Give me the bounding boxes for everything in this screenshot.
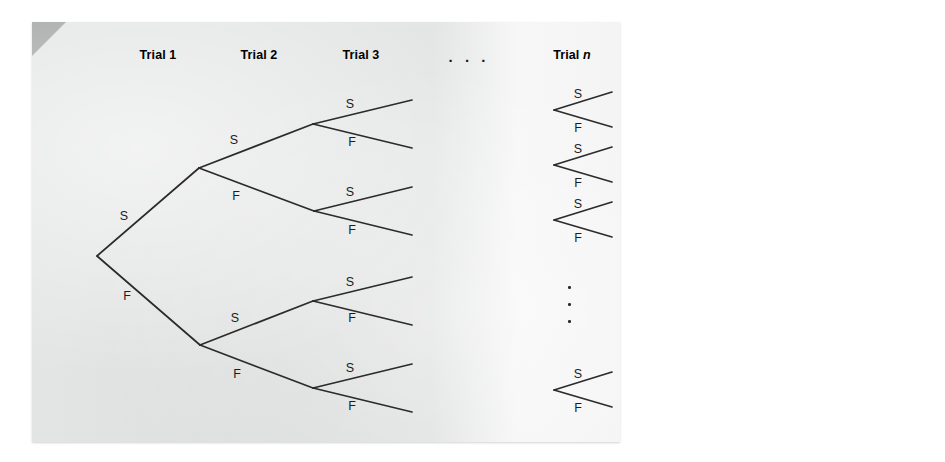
branch-label-success-10: S	[346, 275, 354, 289]
branch-label-failure-13: F	[348, 399, 356, 413]
branch-label-success-16: S	[574, 142, 582, 156]
branch-trialn-s-1	[554, 147, 612, 165]
branch-label-failure-1: F	[123, 289, 131, 303]
branch-trial2-f-1	[199, 168, 314, 211]
header-trial-n-variable: n	[583, 48, 591, 62]
header-trial-2: Trial 2	[241, 48, 278, 62]
tree-branches-layer	[0, 0, 945, 462]
branch-label-failure-3: F	[232, 189, 240, 203]
branch-trialn-f-2	[554, 220, 612, 237]
branch-trialn-f-1	[554, 165, 612, 182]
branch-trialn-s-3	[554, 372, 612, 390]
vertical-ellipsis-dot-2	[568, 320, 571, 323]
branch-label-success-6: S	[346, 97, 354, 111]
vertical-ellipsis-dot-0	[568, 286, 571, 289]
branch-label-failure-19: F	[574, 231, 582, 245]
branch-trialn-s-0	[554, 92, 612, 110]
branch-trial2-s-2	[200, 301, 313, 345]
branch-trial3-s-2	[314, 187, 412, 211]
branch-trialn-f-0	[554, 110, 612, 127]
branch-trial3-s-4	[313, 277, 412, 301]
branch-label-success-18: S	[574, 197, 582, 211]
branch-label-success-2: S	[230, 133, 238, 147]
branch-trialn-s-2	[554, 202, 612, 220]
branch-trial3-f-1	[313, 124, 412, 148]
branch-trial2-f-3	[200, 345, 313, 388]
horizontal-ellipsis: . . .	[449, 48, 490, 65]
branch-trial1-f	[97, 256, 200, 345]
branch-label-failure-21: F	[574, 401, 582, 415]
vertical-ellipsis-dot-1	[568, 303, 571, 306]
branch-label-success-12: S	[346, 361, 354, 375]
branch-trial1-s	[97, 168, 199, 256]
branch-label-success-0: S	[120, 209, 128, 223]
branch-label-failure-15: F	[574, 121, 582, 135]
branch-label-failure-9: F	[348, 223, 356, 237]
branch-trial3-f-7	[313, 388, 412, 412]
branch-label-failure-7: F	[348, 135, 356, 149]
branch-label-success-20: S	[574, 367, 582, 381]
header-trial-n: Trial n	[553, 48, 591, 62]
branch-trial3-s-0	[313, 100, 412, 124]
header-trial-3: Trial 3	[343, 48, 380, 62]
header-trial-1: Trial 1	[140, 48, 177, 62]
branch-label-failure-17: F	[574, 176, 582, 190]
branch-trial2-s-0	[199, 124, 313, 168]
branch-label-success-4: S	[231, 311, 239, 325]
branch-trial3-f-5	[313, 301, 412, 325]
branch-label-success-8: S	[346, 185, 354, 199]
branch-trialn-f-3	[554, 390, 612, 407]
branch-label-failure-11: F	[348, 311, 356, 325]
branch-label-success-14: S	[574, 87, 582, 101]
branch-trial3-s-6	[313, 364, 412, 388]
figure-container: Trial 1Trial 2Trial 3Trial n. . .SFSFSFS…	[0, 0, 945, 462]
branch-trial3-f-3	[314, 211, 412, 235]
branch-label-failure-5: F	[233, 367, 241, 381]
